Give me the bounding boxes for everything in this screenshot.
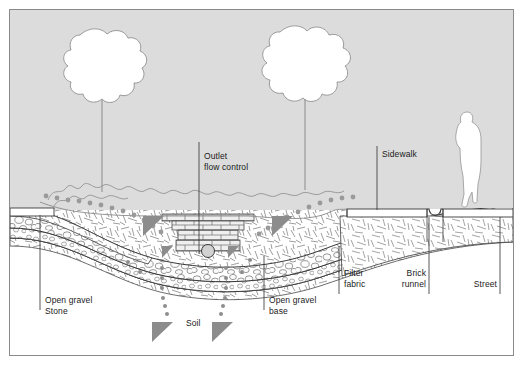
label-brick-runnel: Brick runnel (382, 268, 426, 289)
tree-left (64, 29, 147, 192)
label-open-gravel-stone: Open gravel Stone (45, 295, 92, 316)
tree-right (262, 26, 350, 190)
vegetation-band (48, 183, 344, 206)
subsurface-section (10, 206, 513, 355)
label-outlet-flow-control: Outlet flow control (204, 151, 248, 172)
sidewalk-slab (347, 209, 427, 217)
diagram-frame: Outlet flow control Sidewalk Open gravel… (9, 9, 514, 356)
label-soil: Soil (186, 318, 201, 329)
left-verge (10, 208, 54, 216)
diagram-stage: Outlet flow control Sidewalk Open gravel… (0, 0, 523, 365)
label-filter-fabric: Filter fabric (344, 268, 365, 289)
label-street: Street (453, 279, 497, 290)
street-slab (443, 209, 513, 217)
label-sidewalk: Sidewalk (382, 149, 417, 160)
label-open-gravel-base: Open gravel base (269, 295, 316, 316)
outlet-pipe (202, 245, 215, 258)
person-figure (456, 112, 481, 207)
